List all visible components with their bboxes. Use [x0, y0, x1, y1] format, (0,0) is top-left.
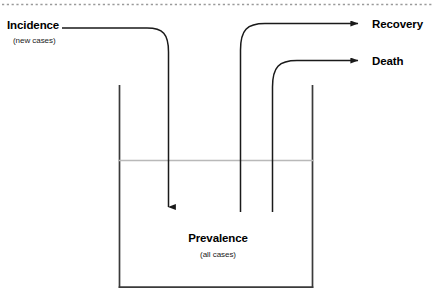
prevalence-label: Prevalence: [0, 233, 436, 245]
diagram-canvas: Incidence (new cases) Recovery Death Pre…: [0, 0, 436, 307]
incidence-sublabel: (new cases): [13, 37, 56, 45]
recovery-label: Recovery: [372, 19, 423, 31]
recovery-flow-arrow: [241, 24, 359, 213]
death-label: Death: [372, 56, 403, 68]
prevalence-sublabel: (all cases): [0, 251, 436, 259]
death-flow-arrow: [273, 61, 359, 213]
incidence-flow-arrow: [62, 28, 169, 207]
incidence-prevalence-diagram: [0, 0, 436, 307]
incidence-label: Incidence: [7, 20, 59, 32]
